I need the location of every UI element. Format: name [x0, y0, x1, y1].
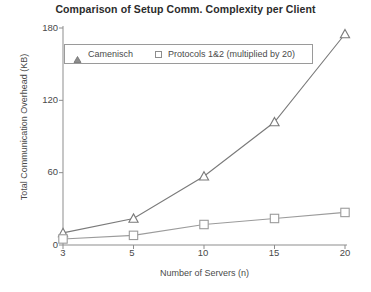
- chart-container: Comparison of Setup Comm. Complexity per…: [0, 0, 371, 292]
- legend-item-protocols: Protocols 1&2 (multiplied by 20): [155, 45, 295, 63]
- legend-label-protocols: Protocols 1&2 (multiplied by 20): [168, 49, 295, 59]
- legend: Camenisch Protocols 1&2 (multiplied by 2…: [64, 44, 313, 64]
- legend-item-camenisch: Camenisch: [73, 45, 133, 63]
- square-marker-icon: [155, 51, 162, 58]
- triangle-marker-icon: [73, 50, 82, 59]
- legend-label-camenisch: Camenisch: [88, 49, 133, 59]
